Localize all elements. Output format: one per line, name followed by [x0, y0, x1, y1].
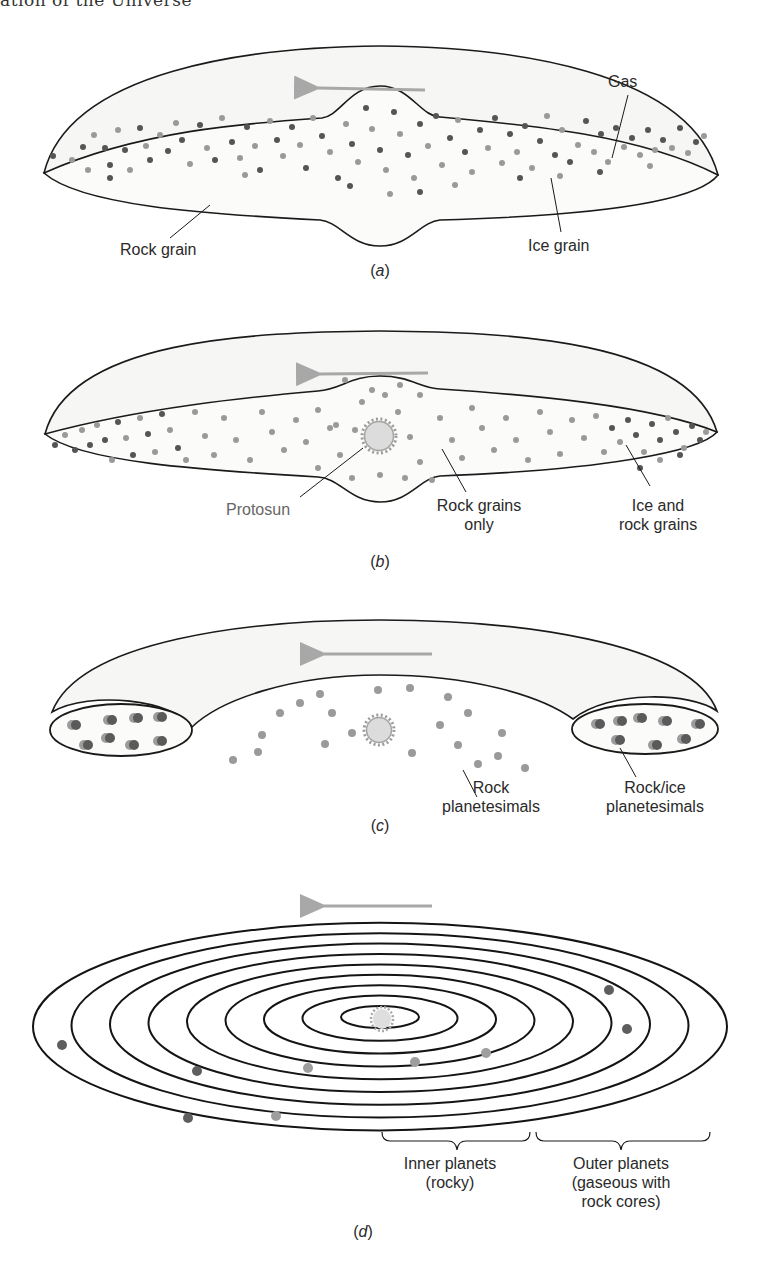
rock-planetesimal [454, 741, 462, 749]
ice-grain [363, 105, 369, 111]
rock-grain [167, 427, 173, 433]
ice-grain [507, 131, 513, 137]
rock-planetesimal [374, 686, 382, 694]
ice-grain [289, 124, 295, 130]
rock-grain [315, 407, 321, 413]
rock-grain [437, 415, 443, 421]
ice-grain [433, 113, 439, 119]
rock-planetesimal [258, 731, 266, 739]
ice-grain [405, 152, 411, 158]
panel-d [33, 906, 727, 1150]
rock-grain [547, 429, 553, 435]
rock-planetesimal [328, 709, 336, 717]
rock-grain [187, 161, 193, 167]
ice-grain [115, 419, 121, 425]
rock-grain [342, 377, 348, 383]
rock-grain [605, 159, 611, 165]
rock-grain [310, 115, 316, 121]
outer-planet [604, 985, 614, 995]
rock-grain [701, 133, 707, 139]
rock-grain [621, 144, 627, 150]
rock-grain [449, 437, 455, 443]
rock-grain [137, 415, 143, 421]
caption-c: (c) [350, 817, 410, 835]
rock-grain [387, 191, 393, 197]
ice-grain [537, 138, 543, 144]
rock-grain [333, 422, 339, 428]
rock-grain [569, 417, 575, 423]
ice-grain [492, 115, 498, 121]
rock-grain [503, 415, 509, 421]
ice-grain [447, 135, 453, 141]
rock-grain [62, 432, 68, 438]
caption-a: (a) [350, 262, 410, 280]
solar-nebula-diagram: ation of the Universe [0, 0, 761, 1274]
ice-grain [660, 137, 666, 143]
rock-grain [221, 415, 227, 421]
rock-grain [269, 429, 275, 435]
rock-grain [544, 113, 550, 119]
ice-grain [102, 437, 108, 443]
rock-grain [94, 422, 100, 428]
rockice-planetesimal-ice [83, 740, 93, 750]
rock-grain [665, 415, 671, 421]
rock-planetesimal [229, 756, 237, 764]
rock-grain [439, 162, 445, 168]
rock-grain [669, 145, 675, 151]
ice-grain [462, 149, 468, 155]
ice-grain [179, 137, 185, 143]
rock-grain [647, 163, 653, 169]
rock-grain [91, 132, 97, 138]
rockice-planetesimal-ice [637, 713, 647, 723]
rock-grain [349, 475, 355, 481]
rock-grain [601, 449, 607, 455]
ice-grain [583, 118, 589, 124]
rock-grain [69, 157, 75, 163]
ice-grain [598, 131, 604, 137]
ice-grain [517, 175, 523, 181]
rock-grain [252, 143, 258, 149]
ice-grain [319, 133, 325, 139]
rock-grain [525, 457, 531, 463]
ice-grain [165, 148, 171, 154]
panel-c [50, 620, 718, 797]
rock-planetesimal [254, 748, 262, 756]
rock-planetesimal [464, 709, 472, 717]
label-protosun: Protosun [226, 500, 290, 519]
rock-grain [395, 409, 401, 415]
ice-grain [159, 411, 165, 417]
rock-grain [593, 413, 599, 419]
ice-grain [229, 139, 235, 145]
rock-grain [219, 115, 225, 121]
rock-grain [152, 449, 158, 455]
rockice-planetesimal-ice [595, 719, 605, 729]
rockice-planetesimal-ice [662, 716, 672, 726]
rock-grain [557, 173, 563, 179]
ice-grain [677, 452, 683, 458]
rock-grain [469, 405, 475, 411]
rock-grain [652, 147, 658, 153]
rockice-planetesimal-ice [615, 735, 625, 745]
ice-grain [197, 122, 203, 128]
ice-grain [657, 437, 663, 443]
ice-grain [347, 183, 353, 189]
outer-planet [57, 1040, 67, 1050]
rock-grain [513, 437, 519, 443]
inner-planet [481, 1048, 491, 1058]
rock-grain [479, 425, 485, 431]
rock-planetesimal [348, 729, 356, 737]
rock-grain [685, 150, 691, 156]
ice-grain [689, 423, 695, 429]
label-gas: Gas [608, 72, 637, 91]
rock-grain [491, 447, 497, 453]
rock-planetesimal [494, 752, 502, 760]
rockice-planetesimal-ice [695, 719, 705, 729]
ice-grain [274, 137, 280, 143]
rock-grain [327, 425, 333, 431]
ice-grain [697, 437, 703, 443]
rock-grain [382, 392, 388, 398]
rock-grain [657, 457, 663, 463]
rock-grain [85, 167, 91, 173]
ice-grain [335, 175, 341, 181]
rock-grain [211, 452, 217, 458]
